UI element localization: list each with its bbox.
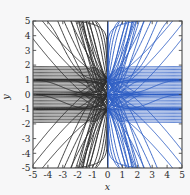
x-axis-label: x <box>105 181 111 192</box>
svg-text:1: 1 <box>120 170 126 180</box>
svg-text:-4: -4 <box>22 149 31 159</box>
svg-text:-1: -1 <box>22 104 31 114</box>
svg-text:-2: -2 <box>73 170 82 180</box>
svg-text:5: 5 <box>25 16 31 26</box>
svg-text:4: 4 <box>25 31 31 41</box>
svg-text:5: 5 <box>179 170 185 180</box>
svg-text:3: 3 <box>149 170 155 180</box>
figure-container: -5-4-3-2-1012345 -5-4-3-2-1012345 x y <box>0 0 190 195</box>
svg-text:0: 0 <box>25 90 31 100</box>
svg-text:-1: -1 <box>88 170 97 180</box>
svg-text:4: 4 <box>164 170 170 180</box>
svg-text:-2: -2 <box>22 119 31 129</box>
plot-canvas: -5-4-3-2-1012345 -5-4-3-2-1012345 x y <box>0 0 190 195</box>
svg-text:-5: -5 <box>22 163 31 173</box>
y-axis-label: y <box>0 94 11 101</box>
svg-text:2: 2 <box>134 170 140 180</box>
svg-text:0: 0 <box>105 170 111 180</box>
svg-text:2: 2 <box>25 60 31 70</box>
svg-text:-3: -3 <box>58 170 67 180</box>
svg-text:3: 3 <box>25 46 31 56</box>
svg-text:-4: -4 <box>44 170 53 180</box>
svg-text:1: 1 <box>25 75 31 85</box>
svg-text:-3: -3 <box>22 134 31 144</box>
